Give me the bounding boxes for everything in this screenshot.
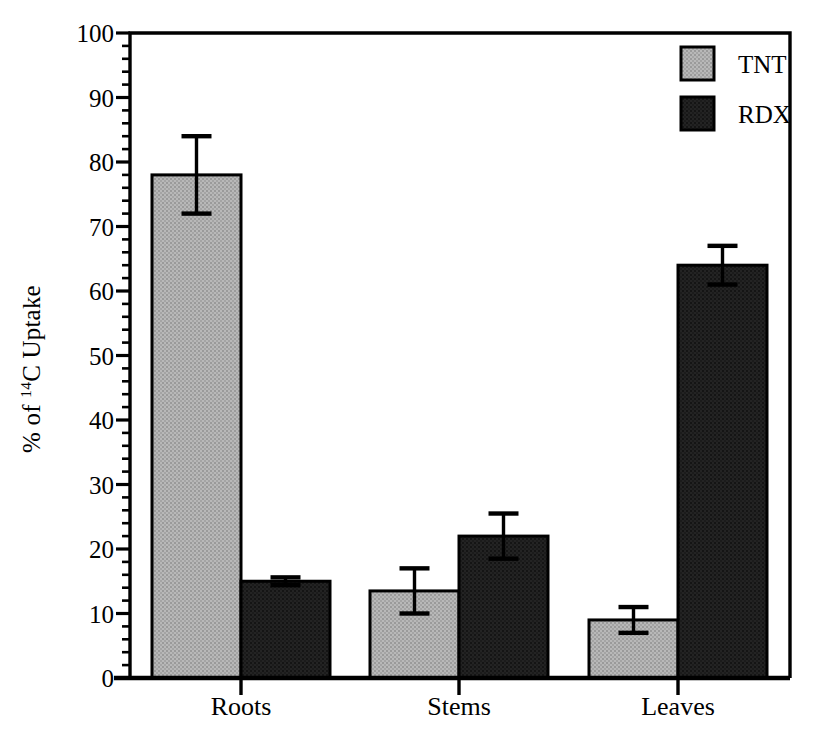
bar-rdx-leaves xyxy=(678,265,767,678)
bar-chart-figure: % of 14C Uptake 0102030405060708090100 R… xyxy=(0,0,817,746)
x-axis-tick-marks xyxy=(241,678,678,695)
legend-label-rdx: RDX xyxy=(738,101,791,126)
legend xyxy=(681,47,714,130)
bar-rdx-roots xyxy=(241,581,330,678)
bar-tnt-roots xyxy=(152,175,241,678)
legend-label-tnt: TNT xyxy=(738,51,787,76)
bars-layer xyxy=(152,175,767,678)
legend-swatch-rdx xyxy=(681,97,714,130)
plot-area xyxy=(0,0,817,746)
axis-tick-marks xyxy=(116,33,130,678)
legend-swatch-tnt xyxy=(681,47,714,80)
